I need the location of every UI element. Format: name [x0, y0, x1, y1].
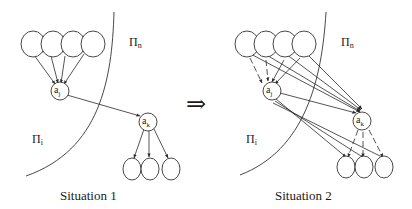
child-node-1: [337, 156, 355, 178]
node-aj: aj: [51, 82, 69, 100]
edge-parent4-aj: [64, 54, 84, 84]
caption-situation-2: Situation 2: [275, 188, 332, 203]
edge-aj-ak: [67, 95, 140, 116]
edge-parent2-ak: [265, 54, 360, 111]
edge-parent4-ak: [305, 52, 362, 109]
node-ak: ak: [139, 113, 157, 131]
child-node-1: [123, 158, 141, 180]
child-node-3: [162, 158, 180, 180]
edge-ak-child3: [369, 130, 383, 157]
situation-2: Πn Πi aj: [235, 12, 393, 203]
edge-aj-child3: [273, 103, 384, 158]
child-node-2: [355, 156, 373, 178]
region-label-i: Πi: [246, 132, 258, 147]
edge-aj-ak: [280, 93, 356, 113]
node-ak: ak: [353, 112, 371, 130]
child-node-3: [375, 156, 393, 178]
parent-node-4: [81, 31, 105, 57]
node-aj: aj: [263, 82, 281, 100]
implies-arrow-icon: ⇒: [186, 91, 206, 117]
parent-node-4: [292, 31, 316, 57]
region-label-n: Πn: [341, 35, 354, 50]
edge-parent2-aj: [51, 56, 58, 83]
region-label-n: Πn: [129, 35, 142, 50]
region-label-i: Πi: [32, 132, 44, 147]
edge-parent1-aj: [250, 58, 262, 83]
edge-parent3-ak: [286, 54, 361, 110]
situation-1: Πn Πi aj ak: [21, 12, 180, 203]
diagram-canvas: Πn Πi aj ak: [0, 0, 412, 209]
edge-ak-child1: [134, 129, 144, 158]
edge-ak-child3: [154, 129, 168, 158]
caption-situation-1: Situation 1: [60, 188, 117, 203]
edge-parent3-aj: [61, 56, 65, 83]
edge-parent1-ak: [247, 52, 360, 112]
child-node-2: [141, 158, 159, 180]
